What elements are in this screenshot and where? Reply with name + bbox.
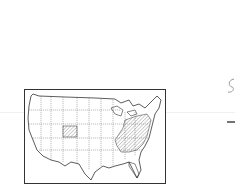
figure-description: Outline map of the contiguous United Sta… (0, 0, 1, 1)
hatched-eastern-states (115, 114, 151, 152)
state-colorado (63, 126, 77, 137)
us-map-outline (25, 90, 165, 183)
us-map (24, 89, 166, 184)
handwritten-mark-top (226, 78, 235, 94)
handwritten-mark-bottom (227, 120, 235, 124)
great-lakes (111, 106, 137, 116)
